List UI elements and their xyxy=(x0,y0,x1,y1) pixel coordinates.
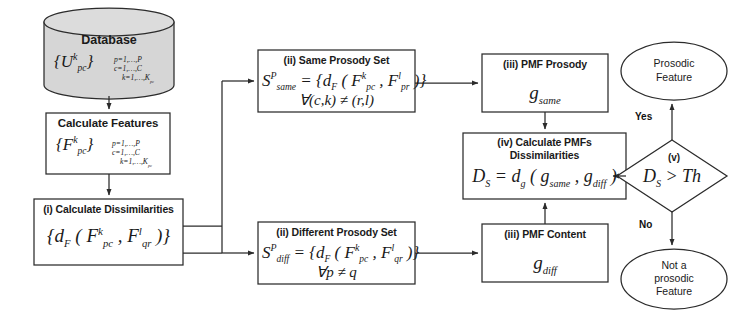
same-prosody-set-label: (ii) Same Prosody Set xyxy=(264,55,409,67)
database-symbol: {Ukpc} xyxy=(54,51,93,74)
not-prosodic-feature-line-2: prosodic xyxy=(621,272,727,285)
calculate-pmfs-label-line-2: Dissimilarities xyxy=(463,150,626,162)
pmf-prosody-label: (iii) PMF Prosody xyxy=(482,59,608,71)
calculate-pmfs-formula: DS = dg ( gsame , gdiff ) xyxy=(463,166,626,189)
prosodic-feature-line-1: Prosodic xyxy=(621,57,727,70)
decision-step-label: (v) xyxy=(659,152,689,163)
calculate-dissimilarities-label: (i) Calculate Dissimilarities xyxy=(34,204,183,216)
different-prosody-set-condition: ∀p ≠ q xyxy=(258,264,415,281)
decision-condition: DS > Th xyxy=(624,166,720,189)
prosodic-feature-line-2: Feature xyxy=(621,71,727,84)
not-prosodic-feature-line-1: Not a xyxy=(621,259,727,272)
calculate-dissimilarities-formula: {dF ( Fkpc , Flqr )} xyxy=(34,225,183,250)
edge-label-no: No xyxy=(639,219,652,230)
same-prosody-set-condition: ∀(c,k) ≠ (r,l) xyxy=(258,92,415,109)
calculate-features-symbol: {Fkpc} xyxy=(56,134,93,157)
calculate-pmfs-label-line-1: (iv) Calculate PMFs xyxy=(463,137,626,149)
database-index-line-1: p=1,…,P xyxy=(114,55,142,64)
edge-label-yes: Yes xyxy=(635,111,652,122)
different-prosody-set-formula: SPdiff = {dF ( Fkpc , Flqr )} xyxy=(262,242,419,265)
database-index-line-2: c=1,…,C xyxy=(114,64,142,73)
different-prosody-set-label: (ii) Different Prosody Set xyxy=(264,227,409,239)
pmf-content-symbol: gdiff xyxy=(482,252,608,277)
figure-canvas: Database {Ukpc} p=1,…,P c=1,…,C k=1,…,Kp… xyxy=(0,0,739,317)
calculate-features-index-line-2: c=1,…,C xyxy=(112,148,140,157)
calculate-features-label: Calculate Features xyxy=(46,117,170,130)
calculate-features-index-line-3: k=1,…,Kpc xyxy=(120,157,152,168)
calculate-features-index-line-1: p=1,…,P xyxy=(112,139,140,148)
database-label: Database xyxy=(44,33,174,47)
pmf-content-label: (iii) PMF Content xyxy=(482,229,608,241)
database-index-line-3: k=1,…,Kpc xyxy=(122,73,154,84)
not-prosodic-feature-line-3: Feature xyxy=(621,285,727,298)
same-prosody-set-formula: SPsame = {dF ( Fkpc , Flpr )} xyxy=(262,70,426,93)
pmf-prosody-symbol: gsame xyxy=(482,82,608,107)
